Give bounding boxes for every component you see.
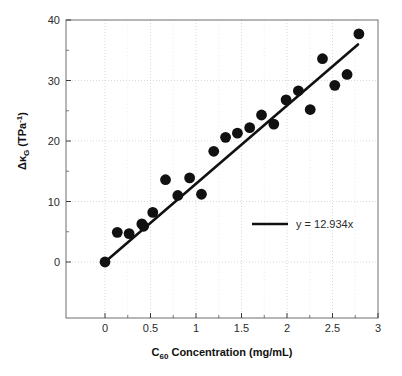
data-point [232, 128, 243, 139]
y-tick-label: 10 [48, 196, 60, 208]
chart-figure: 00.511.522.53 010203040 y = 12.934x C60 … [0, 0, 402, 376]
data-point [281, 94, 292, 105]
y-tick-label: 20 [48, 135, 60, 147]
x-tick-label: 3 [375, 322, 381, 334]
data-point [268, 119, 279, 130]
y-tick-label: 30 [48, 75, 60, 87]
data-point [244, 122, 255, 133]
x-tick-label: 0.5 [143, 322, 158, 334]
data-point [100, 257, 111, 268]
data-point [293, 85, 304, 96]
data-point [147, 207, 158, 218]
x-tick-label: 0 [102, 322, 108, 334]
data-point [220, 132, 231, 143]
data-point [256, 110, 267, 121]
data-point [196, 189, 207, 200]
chart-background [0, 0, 402, 376]
legend-label: y = 12.934x [296, 218, 354, 230]
x-axis-tick-labels: 00.511.522.53 [102, 322, 381, 334]
scatter-plot: 00.511.522.53 010203040 y = 12.934x C60 … [0, 0, 402, 376]
data-point [138, 221, 149, 232]
data-point [305, 104, 316, 115]
data-point [184, 173, 195, 184]
data-point [317, 53, 328, 64]
data-point [208, 146, 219, 157]
data-point [112, 227, 123, 238]
x-tick-label: 2 [284, 322, 290, 334]
data-point [172, 190, 183, 201]
data-point [160, 174, 171, 185]
data-point [329, 80, 340, 91]
data-point [124, 228, 135, 239]
data-point [342, 69, 353, 80]
x-tick-label: 1.5 [234, 322, 249, 334]
y-tick-label: 0 [54, 256, 60, 268]
data-point [353, 29, 364, 40]
y-tick-label: 40 [48, 14, 60, 26]
x-tick-label: 1 [193, 322, 199, 334]
x-tick-label: 2.5 [325, 322, 340, 334]
